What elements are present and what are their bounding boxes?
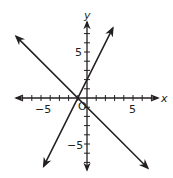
x-axis-label: x bbox=[160, 92, 168, 105]
y-axis bbox=[84, 22, 90, 170]
coordinate-plane: x y O −5 5 5 −5 bbox=[0, 0, 173, 178]
y-axis-label: y bbox=[83, 9, 91, 22]
y-tick-label-neg5: −5 bbox=[67, 139, 83, 152]
y-tick-label-5: 5 bbox=[75, 46, 82, 59]
x-tick-label-neg5: −5 bbox=[35, 103, 51, 116]
x-tick-label-5: 5 bbox=[129, 103, 136, 116]
